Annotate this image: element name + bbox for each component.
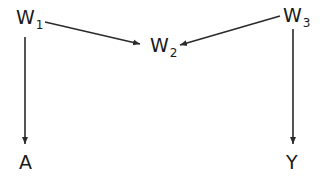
edge-w1-to-w2 [45, 22, 140, 44]
node-w3: W3 [283, 6, 310, 28]
node-a-label: A [19, 151, 32, 173]
node-w2: W2 [150, 36, 177, 58]
node-w2-label: W [150, 34, 169, 56]
node-w3-label: W [283, 4, 302, 26]
node-w1: W1 [16, 8, 43, 30]
dag-canvas: W1 W2 W3 A Y [0, 0, 322, 176]
node-w1-subscript: 1 [36, 18, 44, 32]
node-w3-subscript: 3 [303, 16, 311, 30]
node-w1-label: W [16, 6, 35, 28]
node-a: A [19, 153, 32, 172]
node-y: Y [286, 153, 298, 172]
node-w2-subscript: 2 [170, 46, 178, 60]
node-y-label: Y [286, 151, 298, 173]
edge-w3-to-w2 [180, 16, 280, 45]
edges-layer [0, 0, 322, 176]
